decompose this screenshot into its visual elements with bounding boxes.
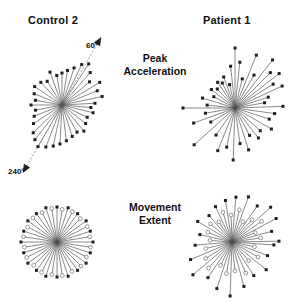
reference-angle-label-60: 60°	[86, 41, 98, 50]
vector-endpoint-filled	[209, 121, 212, 124]
vector-endpoint-open	[244, 271, 248, 275]
vector-endpoint-filled	[216, 81, 219, 84]
vector-endpoint-open	[71, 210, 75, 214]
vector-endpoint-filled	[52, 145, 55, 148]
plot-canvas	[0, 0, 306, 303]
vector-endpoint-open	[32, 263, 36, 267]
vector-endpoint-filled	[259, 129, 262, 132]
vector-endpoint-open	[204, 257, 208, 261]
vector-endpoint-filled	[281, 105, 284, 108]
vector-endpoint-filled	[269, 71, 272, 74]
vector-endpoint-filled	[96, 89, 99, 92]
vector-endpoint-filled	[55, 74, 58, 77]
vector-endpoint-filled	[252, 274, 255, 277]
vector-endpoint-open	[209, 222, 213, 226]
vector-ray	[46, 105, 62, 147]
reference-ray-60	[62, 43, 98, 105]
vector-endpoint-open	[253, 231, 257, 235]
vector-endpoint-filled	[44, 206, 47, 209]
vector-endpoint-filled	[84, 122, 87, 125]
vector-endpoint-filled	[33, 85, 36, 88]
vector-endpoint-filled	[44, 275, 47, 278]
plot-patient1_movement_extent	[189, 195, 280, 297]
vector-endpoint-filled	[216, 149, 219, 152]
vector-endpoint-open	[217, 220, 221, 224]
vector-endpoint-filled	[271, 58, 274, 61]
vector-endpoint-filled	[76, 212, 79, 215]
plot-control2_movement_extent	[20, 206, 95, 279]
polar-vector-figure: Control 2 Patient 1 Peak Acceleration Mo…	[0, 0, 306, 303]
plot-patient1_peak_acceleration	[182, 47, 285, 162]
vector-endpoint-filled	[56, 276, 59, 279]
vector-endpoint-filled	[191, 273, 194, 276]
vector-endpoint-open	[79, 264, 83, 268]
vector-endpoint-filled	[232, 158, 235, 161]
vector-endpoint-filled	[32, 122, 35, 125]
vector-ray	[62, 105, 84, 131]
vector-endpoint-filled	[89, 251, 92, 254]
vector-endpoint-filled	[58, 142, 61, 145]
vector-endpoint-filled	[82, 130, 85, 133]
vector-endpoint-filled	[92, 241, 95, 244]
vector-endpoint-open	[78, 217, 82, 221]
vector-endpoint-filled	[67, 206, 70, 209]
vector-ray	[36, 242, 57, 270]
vector-endpoint-open	[23, 245, 27, 249]
vector-endpoint-filled	[87, 62, 90, 65]
vector-endpoint-filled	[80, 63, 83, 66]
vector-endpoint-filled	[88, 80, 91, 83]
vector-endpoint-open	[26, 225, 30, 229]
vector-endpoint-filled	[22, 230, 25, 233]
vector-endpoint-filled	[206, 276, 209, 279]
vector-endpoint-filled	[46, 80, 49, 83]
vector-ray	[57, 242, 86, 263]
vector-endpoint-filled	[239, 142, 242, 145]
vector-endpoint-filled	[189, 258, 192, 261]
vector-endpoint-filled	[34, 99, 37, 102]
vector-endpoint-open	[89, 245, 93, 249]
vector-endpoint-filled	[61, 72, 64, 75]
vector-endpoint-filled	[22, 251, 25, 254]
vector-ray	[57, 221, 86, 242]
vector-ray	[62, 105, 66, 141]
vector-endpoint-filled	[89, 230, 92, 233]
vector-endpoint-filled	[32, 131, 35, 134]
vector-endpoint-open	[31, 216, 35, 220]
vector-ray	[28, 242, 57, 263]
vector-endpoint-open	[225, 272, 229, 276]
vector-ray	[219, 222, 232, 242]
vector-ray	[235, 108, 275, 114]
vector-endpoint-filled	[212, 95, 215, 98]
vector-endpoint-filled	[206, 104, 209, 107]
vector-endpoint-open	[50, 207, 54, 211]
vector-ray	[194, 108, 235, 123]
row-label-line2: Extent	[121, 214, 189, 227]
vector-endpoint-filled	[263, 101, 266, 104]
vector-endpoint-open	[238, 208, 242, 212]
vector-endpoint-filled	[256, 204, 259, 207]
vector-endpoint-filled	[39, 81, 42, 84]
vector-ray	[36, 214, 57, 242]
vector-endpoint-open	[88, 235, 92, 239]
vector-endpoint-filled	[242, 285, 245, 288]
vector-endpoint-filled	[33, 138, 36, 141]
vector-endpoint-open	[259, 236, 263, 240]
vector-endpoint-open	[221, 210, 225, 214]
vector-endpoint-filled	[44, 146, 47, 149]
vector-endpoint-filled	[196, 220, 199, 223]
row-label-line2: Acceleration	[123, 65, 187, 78]
reference-angle-label-240: 240°	[8, 167, 25, 176]
vector-endpoint-open	[241, 220, 245, 224]
vector-endpoint-filled	[273, 112, 276, 115]
vector-endpoint-open	[256, 255, 260, 259]
vector-endpoint-filled	[198, 233, 201, 236]
vector-ray	[232, 242, 266, 270]
vector-endpoint-open	[253, 245, 257, 249]
vector-endpoint-filled	[277, 240, 280, 243]
vector-endpoint-filled	[267, 96, 270, 99]
vector-endpoint-filled	[182, 107, 185, 110]
vector-endpoint-filled	[89, 71, 92, 74]
vector-endpoint-filled	[210, 88, 213, 91]
vector-endpoint-filled	[265, 268, 268, 271]
vector-ray	[57, 214, 78, 242]
